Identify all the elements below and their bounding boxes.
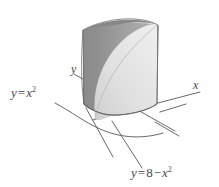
parabola-upper-curve (112, 121, 142, 168)
label-equals: = (17, 85, 26, 100)
solid-body (82, 19, 158, 120)
label-lhs: y (131, 165, 137, 180)
label-constant: 8 (146, 165, 153, 180)
axis-label-y: y (71, 63, 76, 75)
label-minus: − (153, 165, 162, 180)
figure-container: y=x2 y=8−x2 y x (0, 0, 219, 187)
axis-tick-right (160, 104, 186, 112)
label-parabola-lower: y=x2 (11, 86, 36, 99)
label-rhs-exponent: 2 (32, 85, 36, 94)
label-lhs: y (11, 85, 17, 100)
label-rhs-exponent: 2 (168, 165, 172, 174)
label-equals: = (137, 165, 146, 180)
axis-label-x: x (193, 79, 198, 91)
label-parabola-upper: y=8−x2 (131, 166, 172, 179)
